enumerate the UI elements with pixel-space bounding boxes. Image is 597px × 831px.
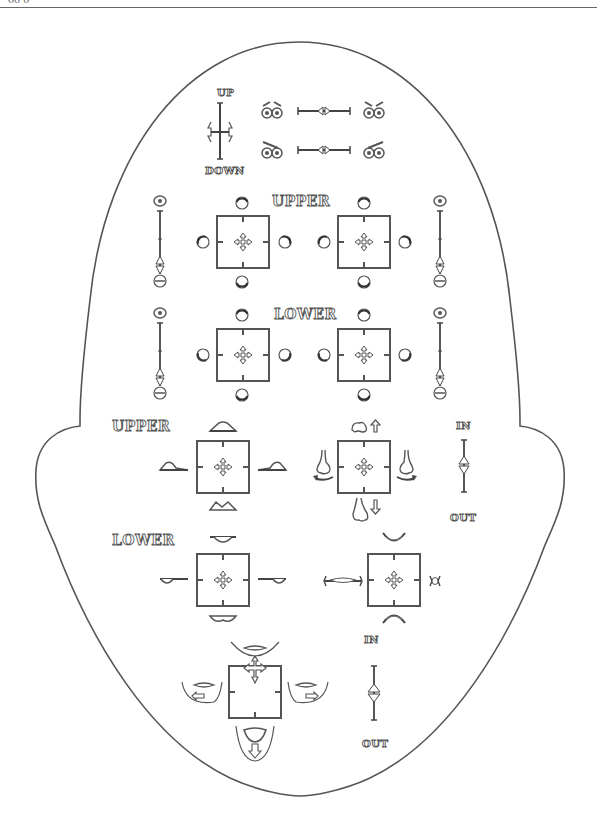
eye-left-icon xyxy=(196,348,210,362)
brow-tilt-icon-right xyxy=(362,140,386,160)
eye-top-icon xyxy=(357,308,371,322)
brow-frown-icon-right xyxy=(362,100,386,120)
move-cross-icon xyxy=(233,232,253,252)
jaw-down-icon xyxy=(234,724,276,764)
eye-bottom-icon xyxy=(357,388,371,402)
left-lower-eye-slider[interactable] xyxy=(152,306,168,402)
lip-lower-label: LOWER xyxy=(112,532,175,548)
jaw-in-label: IN xyxy=(364,634,379,645)
move-cross-icon xyxy=(213,570,233,590)
move-cross-icon xyxy=(354,232,374,252)
jaw-out-label: OUT xyxy=(362,738,388,749)
eye-upper-label: UPPER xyxy=(272,193,330,209)
mouth-frown-icon xyxy=(381,610,407,626)
eye-right-icon xyxy=(278,235,292,249)
eye-left-icon xyxy=(317,348,331,362)
mouth-smile-icon xyxy=(381,530,407,546)
left-upper-eyelid-pad[interactable] xyxy=(216,215,270,269)
eye-left-icon xyxy=(317,235,331,249)
brow-updown-slider[interactable] xyxy=(205,100,235,162)
upper-lip-left-icon xyxy=(158,460,190,474)
move-cross-icon xyxy=(384,570,404,590)
lower-lip-down-icon xyxy=(208,612,238,626)
nose-down-icon xyxy=(350,496,382,524)
nose-inout-slider[interactable] xyxy=(456,438,472,494)
upper-lip-pad[interactable] xyxy=(196,440,250,494)
jaw-up-mouth-icon xyxy=(228,640,282,662)
upper-lip-right-icon xyxy=(256,460,288,474)
eye-bottom-icon xyxy=(235,275,249,289)
eye-top-icon xyxy=(235,308,249,322)
right-upper-eyelid-pad[interactable] xyxy=(337,215,391,269)
nose-up-icon xyxy=(350,418,382,436)
left-lower-eyelid-pad[interactable] xyxy=(216,328,270,382)
upper-lip-down-icon xyxy=(208,498,238,512)
mouth-narrow-icon xyxy=(428,574,442,588)
jaw-left-icon xyxy=(180,680,224,710)
face-rig-control-panel: őő ő UP DOWN xyxy=(0,0,597,831)
brow-up-label: UP xyxy=(217,87,234,98)
brow-tilt-icon-left xyxy=(260,140,284,160)
right-eye-open-slider[interactable] xyxy=(432,194,448,290)
lower-lip-up-icon xyxy=(208,533,238,547)
eye-lower-label: LOWER xyxy=(274,306,337,322)
eye-right-icon xyxy=(398,348,412,362)
upper-lip-up-icon xyxy=(208,420,238,434)
right-lower-eye-slider[interactable] xyxy=(432,306,448,402)
move-cross-icon xyxy=(233,345,253,365)
brow-inner-slider[interactable] xyxy=(296,106,352,116)
nose-pad[interactable] xyxy=(337,440,391,494)
nose-out-label: OUT xyxy=(450,512,476,523)
move-cross-icon xyxy=(213,457,233,477)
move-cross-icon xyxy=(354,457,374,477)
right-lower-eyelid-pad[interactable] xyxy=(337,328,391,382)
brow-outer-slider[interactable] xyxy=(296,145,352,155)
eye-top-icon xyxy=(357,196,371,210)
lower-lip-pad[interactable] xyxy=(196,553,250,607)
nose-in-label: IN xyxy=(456,420,471,431)
eye-right-icon xyxy=(278,348,292,362)
mouth-wide-icon xyxy=(322,574,364,588)
eye-bottom-icon xyxy=(235,388,249,402)
eye-bottom-icon xyxy=(357,275,371,289)
eye-left-icon xyxy=(196,235,210,249)
lower-lip-right-icon xyxy=(256,574,288,588)
move-cross-icon xyxy=(354,345,374,365)
jaw-inout-slider[interactable] xyxy=(366,664,382,722)
mouth-pad[interactable] xyxy=(367,553,421,607)
eye-right-icon xyxy=(398,235,412,249)
eye-top-icon xyxy=(235,196,249,210)
nose-turn-left-icon xyxy=(312,448,336,484)
jaw-right-icon xyxy=(286,680,330,710)
nose-turn-right-icon xyxy=(394,448,418,484)
left-eye-open-slider[interactable] xyxy=(152,194,168,290)
lower-lip-left-icon xyxy=(158,574,190,588)
brow-down-label: DOWN xyxy=(205,165,245,176)
lip-upper-label: UPPER xyxy=(112,418,170,434)
brow-raised-icon-left xyxy=(260,100,284,120)
